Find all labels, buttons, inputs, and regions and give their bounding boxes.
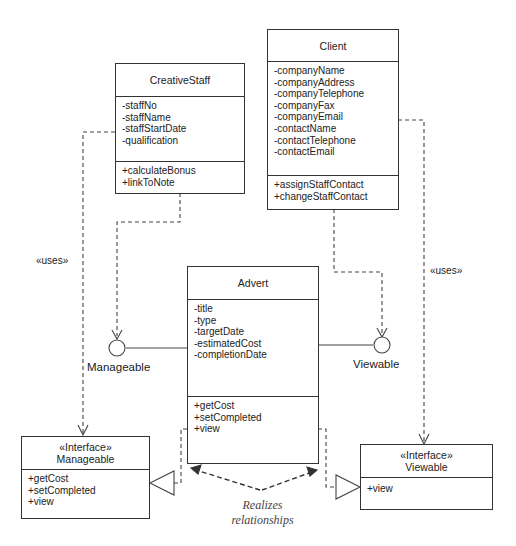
interface-stereotype: «Interface» [361,449,492,461]
uses-label-left: «uses» [36,255,68,266]
realization-advert-manageable [174,429,187,483]
attributes-section: -staffNo -staffName -staffStartDate -qua… [116,97,244,161]
attribute: -title [194,303,318,315]
operation: +view [194,423,318,435]
attribute: -companyTelephone [274,88,398,100]
lollipop-manageable-icon [109,340,125,356]
lollipop-viewable-icon [374,337,390,353]
dependency-creativestaff-manageable-lollipop [117,193,180,336]
attribute: -staffStartDate [122,123,244,135]
operation: +setCompleted [194,412,318,424]
attribute: -companyEmail [274,111,398,123]
operations-section: +calculateBonus +linkToNote [116,161,244,188]
interface-manageable: «Interface» Manageable +getCost +setComp… [21,436,150,519]
uses-creativestaff-manageable [83,132,115,434]
attribute: -staffName [122,112,244,124]
operation: +view [28,496,149,508]
attribute: -companyName [274,65,398,77]
interface-header: «Interface» Manageable [22,437,149,470]
interface-name: Viewable [361,461,492,473]
attribute: -contactEmail [274,146,398,158]
annotation-arrow-right [262,472,312,490]
class-header: CreativeStaff [116,64,244,97]
attribute: -targetDate [194,326,318,338]
annotation-line: relationships [215,513,310,528]
interface-stereotype: «Interface» [22,441,149,453]
operation: +setCompleted [28,485,149,497]
attributes-section: -title -type -targetDate -estimatedCost … [188,300,318,396]
attribute: -staffNo [122,100,244,112]
attribute: -type [194,315,318,327]
class-advert: Advert -title -type -targetDate -estimat… [187,266,319,464]
operations-section: +view [361,478,492,495]
class-header: Advert [188,267,318,300]
attribute: -companyAddress [274,77,398,89]
operation: +getCost [28,473,149,485]
attribute: -companyFax [274,100,398,112]
uses-label-right: «uses» [430,265,462,276]
operation: +linkToNote [122,177,244,189]
interface-name: Manageable [22,453,149,465]
operation: +calculateBonus [122,165,244,177]
dependency-client-viewable-lollipop [334,209,382,334]
lollipop-label-manageable: Manageable [87,361,150,373]
realizes-relationships-annotation: Realizes relationships [215,498,310,528]
operation: +getCost [194,400,318,412]
operation: +changeStaffContact [274,191,398,203]
class-creativestaff: CreativeStaff -staffNo -staffName -staff… [115,63,245,194]
class-header: Client [268,30,398,62]
attribute: -estimatedCost [194,338,318,350]
attribute: -qualification [122,135,244,147]
class-name: Client [268,40,398,52]
interface-viewable: «Interface» Viewable +view [360,444,493,510]
interface-header: «Interface» Viewable [361,445,492,478]
attribute: -contactName [274,123,398,135]
attributes-section: -companyName -companyAddress -companyTel… [268,62,398,175]
realization-triangle-manageable-icon [150,471,174,495]
annotation-arrowhead-left-icon [191,465,201,474]
operation: +view [367,483,492,495]
realization-triangle-viewable-icon [336,475,360,499]
attribute: -completionDate [194,349,318,361]
lollipop-label-viewable: Viewable [353,358,399,370]
class-name: Advert [188,277,318,289]
class-client: Client -companyName -companyAddress -com… [267,29,399,210]
annotation-arrow-left [196,470,260,490]
uses-client-viewable [398,120,424,443]
annotation-line: Realizes [215,498,310,513]
operations-section: +assignStaffContact +changeStaffContact [268,175,398,202]
annotation-arrowhead-right-icon [307,467,317,476]
attribute: -contactTelephone [274,135,398,147]
realization-advert-viewable [318,429,336,487]
operations-section: +getCost +setCompleted +view [188,396,318,435]
class-name: CreativeStaff [116,74,244,86]
operation: +assignStaffContact [274,179,398,191]
operations-section: +getCost +setCompleted +view [22,470,149,508]
